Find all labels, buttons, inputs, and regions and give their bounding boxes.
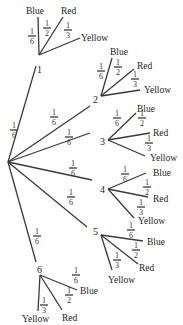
- svg-text:6: 6: [35, 237, 39, 246]
- svg-text:6: 6: [12, 131, 16, 140]
- svg-text:6: 6: [52, 118, 56, 127]
- outcome-yellow: Yellow: [81, 33, 108, 43]
- svg-text:1: 1: [45, 19, 49, 28]
- prob-root-2: 1 6: [50, 108, 58, 127]
- svg-text:Blue: Blue: [153, 168, 171, 178]
- svg-text:1: 1: [71, 159, 75, 168]
- svg-text:5: 5: [93, 226, 98, 237]
- node-6: 6 Blue Red Yellow 1 6 1 2 1 3: [22, 264, 98, 324]
- svg-text:Yellow: Yellow: [150, 153, 177, 163]
- prob-root-4: 1 6: [69, 159, 77, 178]
- svg-text:1: 1: [134, 241, 138, 250]
- svg-text:Red: Red: [137, 61, 153, 71]
- branch-root-5: [8, 162, 87, 227]
- prob-root-6: 1 6: [33, 227, 41, 246]
- svg-text:6: 6: [30, 37, 34, 46]
- node-2: 2 Blue Red Yellow 1 6 1 2 1 3: [93, 47, 171, 105]
- branch-root-6: [8, 162, 36, 262]
- svg-text:Yellow: Yellow: [138, 216, 165, 226]
- svg-text:1: 1: [115, 251, 119, 260]
- svg-text:1: 1: [147, 134, 151, 143]
- svg-text:Red: Red: [62, 313, 78, 323]
- svg-text:6: 6: [99, 72, 103, 81]
- branch-6-yellow: [38, 275, 40, 311]
- branch-3-yellow: [108, 140, 145, 156]
- svg-text:1: 1: [67, 128, 71, 137]
- svg-text:1: 1: [99, 62, 103, 71]
- svg-text:Blue: Blue: [147, 237, 165, 247]
- branch-4-blue: [108, 173, 146, 189]
- svg-text:2: 2: [134, 251, 138, 260]
- svg-text:6: 6: [129, 231, 133, 240]
- branch-root-4: [8, 162, 92, 180]
- svg-text:Yellow: Yellow: [22, 314, 49, 324]
- branch-1-yellow: [39, 38, 80, 55]
- branch-root-3: [8, 133, 90, 162]
- svg-text:3: 3: [115, 261, 119, 270]
- svg-text:1: 1: [115, 109, 119, 118]
- svg-text:1: 1: [133, 70, 137, 79]
- svg-text:6: 6: [67, 138, 71, 147]
- node-1: 1 Blue Red Yellow 1 6 1 2 1 3: [26, 6, 108, 75]
- svg-text:6: 6: [74, 276, 78, 285]
- svg-text:Red: Red: [139, 263, 155, 273]
- branch-root-1: [8, 66, 36, 162]
- first-stage-branches: [8, 66, 92, 262]
- outcome-blue: Blue: [26, 6, 44, 16]
- branch-1-blue: [38, 17, 39, 55]
- svg-text:1: 1: [37, 64, 42, 75]
- svg-text:1: 1: [12, 121, 16, 130]
- node-5: 5 Blue Red Yellow 1 6 1 2 1 3: [93, 221, 165, 285]
- svg-text:1: 1: [35, 227, 39, 236]
- svg-text:2: 2: [93, 94, 98, 105]
- svg-text:2: 2: [116, 68, 120, 77]
- svg-text:6: 6: [115, 119, 119, 128]
- svg-text:1: 1: [145, 178, 149, 187]
- svg-text:3: 3: [147, 144, 151, 153]
- outcome-red: Red: [61, 6, 77, 16]
- node-3: 3 Blue Red Yellow 1 6 1 2 1 3: [100, 104, 177, 163]
- svg-text:3: 3: [133, 80, 137, 89]
- svg-text:2: 2: [67, 296, 71, 305]
- branch-1-red: [39, 17, 63, 55]
- prob-root-1: 1 6: [10, 121, 18, 140]
- svg-text:Yellow: Yellow: [108, 275, 135, 285]
- svg-text:1: 1: [129, 221, 133, 230]
- svg-text:1: 1: [52, 108, 56, 117]
- svg-text:6: 6: [69, 198, 73, 207]
- svg-text:Red: Red: [153, 194, 169, 204]
- prob-root-5: 1 6: [67, 188, 75, 207]
- svg-text:3: 3: [66, 31, 70, 40]
- prob-root-3: 1 6: [65, 128, 73, 147]
- node-4: 4 Blue Red Yellow 1 6 1 2 1 3: [100, 165, 171, 226]
- svg-text:Red: Red: [153, 128, 169, 138]
- svg-text:6: 6: [37, 264, 42, 275]
- svg-text:2: 2: [145, 188, 149, 197]
- branch-root-2: [8, 106, 90, 162]
- branch-6-blue: [40, 275, 77, 290]
- svg-text:3: 3: [42, 306, 46, 315]
- svg-text:Yellow: Yellow: [144, 85, 171, 95]
- first-stage-probs: 1 6 1 6 1 6 1 6 1 6 1 6: [10, 108, 77, 246]
- probability-tree: 1 6 1 6 1 6 1 6 1 6 1 6: [0, 0, 183, 325]
- svg-text:4: 4: [100, 184, 105, 195]
- svg-text:1: 1: [140, 109, 144, 118]
- svg-text:6: 6: [123, 175, 127, 184]
- svg-text:2: 2: [45, 29, 49, 38]
- branch-5-yellow: [101, 235, 112, 270]
- svg-text:1: 1: [139, 198, 143, 207]
- svg-text:3: 3: [100, 136, 105, 147]
- svg-text:1: 1: [42, 296, 46, 305]
- svg-text:Blue: Blue: [80, 286, 98, 296]
- svg-text:Blue: Blue: [110, 47, 128, 57]
- svg-text:6: 6: [71, 169, 75, 178]
- svg-text:1: 1: [66, 21, 70, 30]
- svg-text:1: 1: [116, 58, 120, 67]
- svg-text:1: 1: [69, 188, 73, 197]
- svg-text:1: 1: [74, 266, 78, 275]
- svg-text:2: 2: [140, 119, 144, 128]
- svg-text:1: 1: [67, 286, 71, 295]
- svg-text:1: 1: [123, 165, 127, 174]
- svg-text:1: 1: [30, 27, 34, 36]
- svg-text:3: 3: [139, 208, 143, 217]
